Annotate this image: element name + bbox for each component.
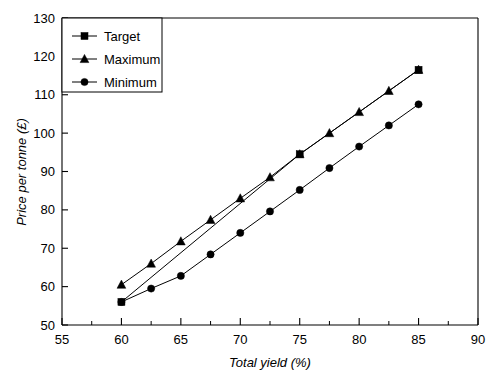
x-tick-label: 70 <box>233 332 247 347</box>
data-point-minimum <box>118 298 125 305</box>
x-tick-label: 55 <box>55 332 69 347</box>
data-point-maximum <box>384 86 393 94</box>
data-point-maximum <box>325 129 334 137</box>
data-point-minimum <box>296 186 303 193</box>
data-point-minimum <box>266 208 273 215</box>
legend-label-minimum: Minimum <box>104 75 157 90</box>
y-axis-title: Price per tonne (£) <box>14 118 29 226</box>
data-point-maximum <box>117 280 126 288</box>
series-minimum <box>118 101 422 306</box>
y-tick-label: 50 <box>41 318 55 333</box>
data-point-minimum <box>207 251 214 258</box>
x-axis-title: Total yield (%) <box>229 355 311 370</box>
x-tick-label: 75 <box>292 332 306 347</box>
data-point-minimum <box>237 229 244 236</box>
chart-figure: 5060708090100110120130 5560657075808590 … <box>0 0 497 374</box>
data-point-minimum <box>415 101 422 108</box>
legend-label-target: Target <box>104 29 141 44</box>
data-point-minimum <box>385 122 392 129</box>
y-tick-label: 130 <box>33 11 55 26</box>
data-point-minimum <box>356 143 363 150</box>
data-point-maximum <box>236 194 245 202</box>
data-point-maximum <box>176 237 185 245</box>
y-tick-label: 80 <box>41 202 55 217</box>
chart-legend: TargetMaximumMinimum <box>62 18 162 92</box>
series-line-target <box>121 70 418 302</box>
x-tick-label: 80 <box>352 332 366 347</box>
legend-marker-minimum <box>81 78 88 85</box>
data-point-maximum <box>355 107 364 115</box>
data-point-minimum <box>148 285 155 292</box>
series-target <box>118 66 422 305</box>
x-tick-label: 65 <box>174 332 188 347</box>
data-series-group <box>117 65 423 305</box>
data-point-maximum <box>206 215 215 223</box>
y-tick-label: 60 <box>41 279 55 294</box>
y-tick-label: 110 <box>34 87 55 102</box>
series-maximum <box>117 65 423 288</box>
x-axis-minor-ticks <box>92 321 449 325</box>
y-tick-label: 100 <box>33 126 55 141</box>
y-axis-tick-labels: 5060708090100110120130 <box>33 11 55 333</box>
legend-marker-target <box>81 33 88 40</box>
price-yield-line-chart: 5060708090100110120130 5560657075808590 … <box>0 0 497 374</box>
x-axis-tick-labels: 5560657075808590 <box>55 332 485 347</box>
y-tick-label: 120 <box>33 49 55 64</box>
x-tick-label: 90 <box>471 332 485 347</box>
y-tick-label: 70 <box>41 241 55 256</box>
x-tick-label: 85 <box>411 332 425 347</box>
data-point-minimum <box>326 164 333 171</box>
y-tick-label: 90 <box>41 164 55 179</box>
legend-label-maximum: Maximum <box>104 52 160 67</box>
x-tick-label: 60 <box>114 332 128 347</box>
series-line-minimum <box>121 104 418 302</box>
data-point-minimum <box>177 272 184 279</box>
data-point-maximum <box>147 259 156 267</box>
